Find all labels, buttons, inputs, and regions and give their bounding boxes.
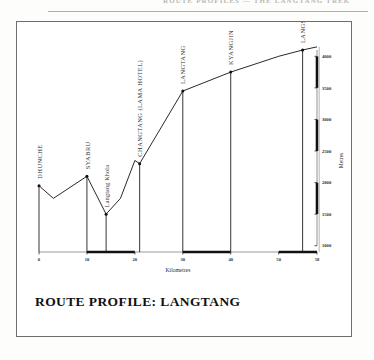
waypoint-marker: [229, 71, 232, 74]
running-header-text: ROUTE PROFILES — THE LANGTANG TREK: [163, 0, 368, 5]
waypoint-marker: [105, 213, 108, 216]
y-tick-label: 4000: [322, 54, 332, 59]
scanned-page: ROUTE PROFILES — THE LANGTANG TREK 10001…: [0, 0, 374, 360]
figure-caption: ROUTE PROFILE: LANGTANG: [35, 294, 240, 310]
y-tick-label: 1000: [322, 243, 332, 248]
waypoint-marker: [85, 175, 88, 178]
header-rule: [48, 11, 368, 12]
waypoint-label: SYABRU: [84, 141, 91, 169]
waypoint-label: KYANGJIN: [227, 30, 234, 65]
x-tick-label: 40: [228, 257, 233, 262]
x-tick-label: 50: [276, 257, 281, 262]
plot-group: 1000150020002500300035004000Metres010203…: [36, 22, 344, 273]
waypoint-label: LANGSHISA: [299, 22, 306, 43]
waypoint-marker: [38, 184, 41, 187]
waypoint-label: Langtang Khola: [104, 165, 110, 207]
waypoint-marker: [181, 90, 184, 93]
waypoint-label: CHANGTANG (LAMA HOTEL): [136, 60, 144, 157]
waypoint-marker: [301, 49, 304, 52]
x-tick-label: 58: [315, 257, 320, 262]
x-axis-title: Kilometres: [166, 267, 191, 273]
x-tick-label: 30: [180, 257, 185, 262]
y-tick-label: 3500: [322, 86, 332, 91]
y-axis-title: Metres: [338, 153, 344, 169]
running-header: ROUTE PROFILES — THE LANGTANG TREK: [163, 0, 368, 6]
y-tick-label: 2000: [322, 180, 332, 185]
route-profile-chart: 1000150020002500300035004000Metres010203…: [17, 22, 353, 282]
elevation-profile-line: [39, 47, 317, 214]
y-tick-label: 3000: [322, 117, 332, 122]
y-tick-label: 2500: [322, 149, 332, 154]
y-tick-label: 1500: [322, 212, 332, 217]
x-tick-label: 10: [85, 257, 90, 262]
waypoint-label: LANGTANG: [179, 45, 186, 84]
waypoint-marker: [138, 162, 141, 165]
waypoint-label: DHUNCHE: [36, 144, 43, 178]
x-tick-label: 20: [133, 257, 138, 262]
x-tick-label: 0: [38, 257, 41, 262]
figure-frame: 1000150020002500300035004000Metres010203…: [16, 21, 352, 337]
